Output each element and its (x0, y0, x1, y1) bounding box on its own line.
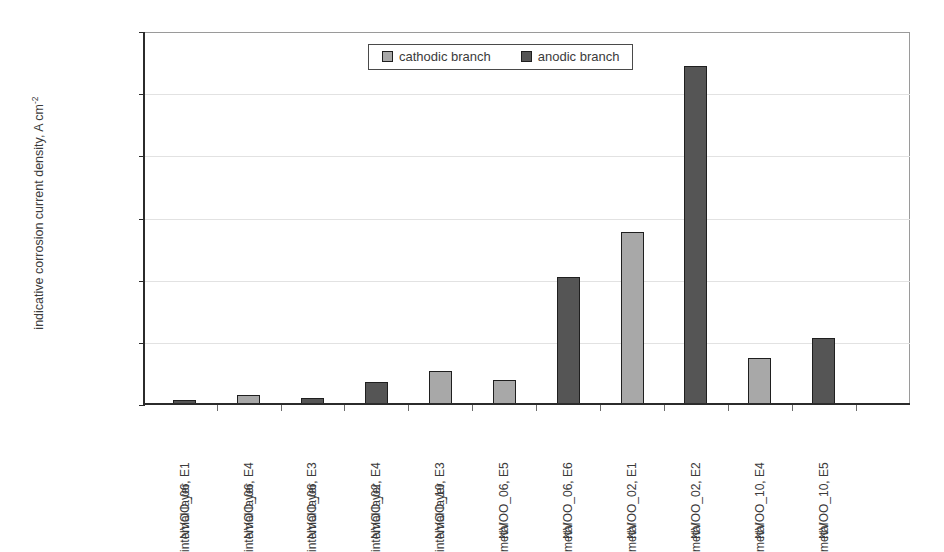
y-tick-mark (139, 405, 145, 406)
gridline (145, 281, 910, 282)
plot-area (143, 32, 910, 405)
y-axis-title-text: indicative corrosion current density, A … (32, 104, 46, 330)
y-tick-mark (139, 219, 145, 220)
x-category-label: NVOO_10, E5metal (811, 411, 831, 539)
x-category-label-line2: internal layer (363, 424, 383, 552)
legend-item-cathodic: cathodic branch (382, 49, 491, 64)
legend-swatch-cathodic (382, 51, 393, 62)
x-category-label-line2: metal (619, 424, 639, 552)
bar[interactable] (365, 382, 388, 405)
bar[interactable] (493, 380, 516, 405)
y-tick-mark (139, 94, 145, 95)
x-category-label: NVOO_06, E6metal (555, 411, 575, 539)
y-tick-mark (139, 156, 145, 157)
legend-label-cathodic: cathodic branch (399, 49, 491, 64)
gridline (145, 343, 910, 344)
gridline (145, 156, 910, 157)
legend-item-anodic: anodic branch (521, 49, 620, 64)
x-category-label: NVOO_02, E4internal layer (363, 411, 383, 539)
chart-legend: cathodic branch anodic branch (368, 44, 633, 70)
x-category-label: NVOO_10, E3internal layer (427, 411, 447, 539)
x-category-label-line2: metal (747, 424, 767, 552)
x-category-label-line2: internal layer (236, 424, 256, 552)
bar[interactable] (429, 371, 452, 405)
y-tick-mark (139, 281, 145, 282)
x-category-label-line2: internal layer (427, 424, 447, 552)
plot-frame-top (145, 32, 910, 33)
bar[interactable] (684, 66, 707, 405)
x-category-label-line2: metal (811, 424, 831, 552)
x-category-label: NVOO_10, E4metal (747, 411, 767, 539)
x-category-label-line2: metal (555, 424, 575, 552)
y-axis-title: indicative corrosion current density, A … (30, 23, 46, 403)
y-tick-mark (139, 32, 145, 33)
x-category-label: NVOO_02, E1metal (619, 411, 639, 539)
bar[interactable] (557, 277, 580, 405)
legend-swatch-anodic (521, 51, 532, 62)
x-axis-category-labels: NVOO_06, E1internal layerNVOO_06, E4inte… (143, 409, 910, 540)
y-tick-mark (139, 343, 145, 344)
x-axis-baseline (145, 403, 910, 405)
clipped-caption-remnant (0, 0, 944, 3)
gridline (145, 219, 910, 220)
gridline (145, 94, 910, 95)
x-category-label: NVOO_06, E5metal (491, 411, 511, 539)
x-category-label: NVOO_06, E1internal layer (172, 411, 192, 539)
x-category-label: NVOO_02, E2metal (683, 411, 703, 539)
x-category-label-line2: internal layer (299, 424, 319, 552)
y-axis-title-exponent: -2 (30, 97, 40, 105)
bar[interactable] (748, 358, 771, 405)
x-category-label: NVOO_06, E4internal layer (236, 411, 256, 539)
bar[interactable] (621, 232, 644, 405)
legend-label-anodic: anodic branch (538, 49, 620, 64)
x-category-label-line2: internal layer (172, 424, 192, 552)
x-category-label-line2: metal (491, 424, 511, 552)
x-category-label-line2: metal (683, 424, 703, 552)
bar[interactable] (812, 338, 835, 405)
x-category-label: NVOO_06, E3internal layer (299, 411, 319, 539)
